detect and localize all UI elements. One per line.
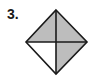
diamond-figure [0,0,93,78]
